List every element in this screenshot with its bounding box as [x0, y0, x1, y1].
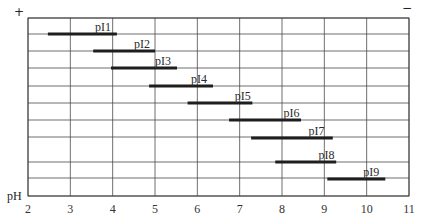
x-axis-label: pH — [7, 189, 22, 203]
pi-label: pI4 — [191, 72, 207, 86]
x-tick-label: 3 — [67, 202, 73, 216]
x-tick-label: 8 — [279, 202, 285, 216]
pi-label: pI7 — [309, 124, 325, 138]
pi-label: pI8 — [319, 148, 335, 162]
x-tick-label: 4 — [110, 202, 116, 216]
pi-bars: pI1pI2pI3pI4pI5pI6pI7pI8pI9 — [48, 20, 385, 179]
negative-pole-marker: − — [402, 1, 412, 15]
pi-label: pI5 — [235, 89, 251, 103]
pi-label: pI3 — [155, 54, 171, 68]
x-tick-label: 10 — [361, 202, 373, 216]
plot-frame — [28, 18, 409, 196]
x-tick-label: 6 — [194, 202, 200, 216]
positive-pole-marker: + — [14, 5, 24, 19]
x-tick-label: 5 — [152, 202, 158, 216]
pi-range-chart: pI1pI2pI3pI4pI5pI6pI7pI8pI9 234567891011… — [0, 0, 421, 222]
chart-grid — [28, 18, 409, 196]
x-tick-label: 9 — [321, 202, 327, 216]
pi-label: pI2 — [134, 37, 150, 51]
x-tick-label: 11 — [403, 202, 415, 216]
x-tick-label: 7 — [237, 202, 243, 216]
x-tick-label: 2 — [25, 202, 31, 216]
x-axis-ticks: 234567891011 — [25, 202, 415, 216]
pi-label: pI1 — [95, 20, 111, 34]
pi-label: pI9 — [363, 165, 379, 179]
pi-label: pI6 — [283, 106, 299, 120]
